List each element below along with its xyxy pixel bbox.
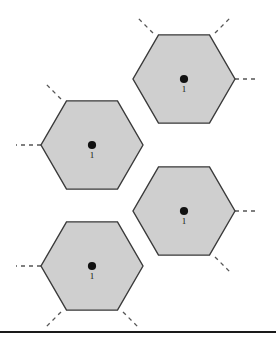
hexagon-cell-group: 1 1 1 1 <box>41 35 235 310</box>
bottom-horizontal-rule <box>0 331 276 333</box>
cell-center-dot-icon <box>180 207 188 215</box>
cell-center-dot-icon <box>88 141 96 149</box>
dash-stub <box>46 84 61 99</box>
dash-stub <box>123 312 138 327</box>
cell-center-dot-icon <box>88 262 96 270</box>
dash-stub <box>215 18 230 33</box>
cell-center-dot-icon <box>180 75 188 83</box>
hexagon-cell[interactable]: 1 <box>133 35 235 123</box>
cell-label: 1 <box>182 84 187 94</box>
hexagon-cell[interactable]: 1 <box>41 222 143 310</box>
cell-label: 1 <box>182 216 187 226</box>
cell-label: 1 <box>90 150 95 160</box>
hexagon-cell[interactable]: 1 <box>133 167 235 255</box>
dash-stub <box>46 312 61 327</box>
dash-stub <box>138 18 153 33</box>
cell-label: 1 <box>90 271 95 281</box>
dash-stub <box>215 257 230 272</box>
hexagonal-cell-diagram: 1 1 1 1 <box>0 0 276 341</box>
figure-page: 1 1 1 1 <box>0 0 276 341</box>
hexagon-cell[interactable]: 1 <box>41 101 143 189</box>
